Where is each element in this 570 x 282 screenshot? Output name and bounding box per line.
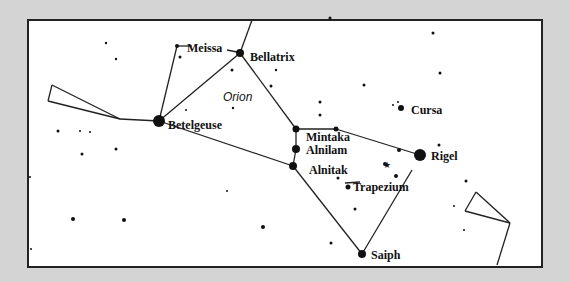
minor-star-icon xyxy=(105,42,107,44)
minor-star-icon xyxy=(453,205,455,207)
star-label-meissa: Meissa xyxy=(187,42,222,54)
minor-star-icon xyxy=(392,104,394,106)
star-label-rigel: Rigel xyxy=(431,150,458,162)
minor-star-icon xyxy=(261,225,265,229)
minor-star-icon xyxy=(397,101,399,103)
star-alnilam-icon xyxy=(292,145,300,153)
minor-star-icon xyxy=(465,180,468,183)
minor-star-icon xyxy=(439,72,442,75)
minor-star-icon xyxy=(122,218,126,222)
minor-star-icon xyxy=(330,242,333,245)
star-alnitak-icon xyxy=(289,162,297,170)
minor-star-icon xyxy=(226,190,228,192)
constellation-label: Orion xyxy=(223,91,252,103)
star-saiph-icon xyxy=(358,250,366,258)
minor-star-icon xyxy=(89,131,91,133)
minor-star-icon xyxy=(397,148,401,152)
star-label-alnilam: Alnilam xyxy=(306,144,347,156)
star-bellatrix-icon xyxy=(236,49,244,57)
star-label-alnitak: Alnitak xyxy=(309,164,348,176)
star-label-betelgeuse: Betelgeuse xyxy=(168,119,222,131)
star-label-saiph: Saiph xyxy=(371,249,400,261)
minor-star-icon xyxy=(115,58,117,60)
minor-star-icon xyxy=(71,217,75,221)
minor-star-icon xyxy=(57,130,60,133)
minor-star-icon xyxy=(319,114,322,117)
minor-star-icon xyxy=(30,248,32,250)
minor-star-icon xyxy=(394,174,398,178)
nebula-icon: ★ xyxy=(383,160,391,170)
star-cursa-icon xyxy=(398,105,404,111)
minor-star-icon xyxy=(319,101,322,104)
minor-star-icon xyxy=(438,144,441,147)
orion-star-chart: ★ xyxy=(0,0,570,282)
star-label-bellatrix: Bellatrix xyxy=(250,51,295,63)
minor-star-icon xyxy=(270,85,273,88)
minor-star-icon xyxy=(463,229,465,231)
star-mintaka-icon xyxy=(293,126,300,133)
minor-star-icon xyxy=(79,130,81,132)
star-betelgeuse-icon xyxy=(153,115,165,127)
minor-star-icon xyxy=(29,176,31,178)
minor-star-icon xyxy=(115,148,118,151)
minor-star-icon xyxy=(354,208,357,211)
minor-star-icon xyxy=(179,56,182,59)
minor-star-icon xyxy=(231,69,234,72)
nebula-glyphs: ★ xyxy=(383,160,391,170)
star-meissa-icon xyxy=(175,44,179,48)
minor-star-icon xyxy=(432,32,435,35)
star-rigel-icon xyxy=(414,149,426,161)
minor-star-icon xyxy=(329,17,332,20)
star-label-cursa: Cursa xyxy=(411,104,442,116)
star-label-mintaka: Mintaka xyxy=(306,131,350,143)
minor-star-icon xyxy=(185,109,187,111)
minor-star-icon xyxy=(81,153,84,156)
minor-star-icon xyxy=(232,107,234,109)
star-trapezium-icon xyxy=(346,185,351,190)
minor-star-icon xyxy=(363,84,366,87)
star-label-trapezium: Trapezium xyxy=(353,181,409,193)
minor-star-icon xyxy=(275,69,277,71)
